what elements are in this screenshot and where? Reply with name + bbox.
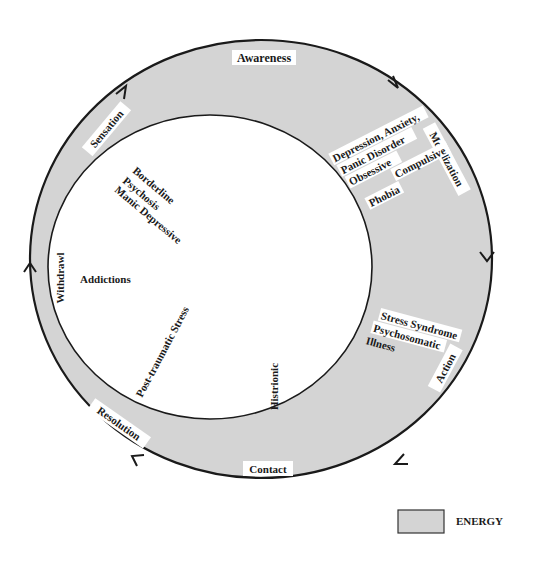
legend-label-energy: ENERGY (456, 515, 503, 527)
svg-text:Contact: Contact (249, 463, 287, 475)
disorder-addictions: Addictions (80, 273, 131, 285)
svg-text:Awareness: Awareness (237, 51, 292, 65)
stage-withdrawl: Withdrawl (54, 252, 66, 303)
energy-cycle-diagram: Awareness Mobilization Action Contact Re… (0, 0, 537, 561)
stage-contact: Contact (243, 461, 293, 476)
stage-awareness: Awareness (232, 50, 296, 65)
inner-area (48, 115, 372, 419)
legend: ENERGY (398, 510, 503, 533)
legend-swatch-energy (398, 510, 444, 533)
disorder-histrionic: Histrionic (268, 363, 280, 410)
svg-text:Withdrawl: Withdrawl (54, 252, 66, 303)
